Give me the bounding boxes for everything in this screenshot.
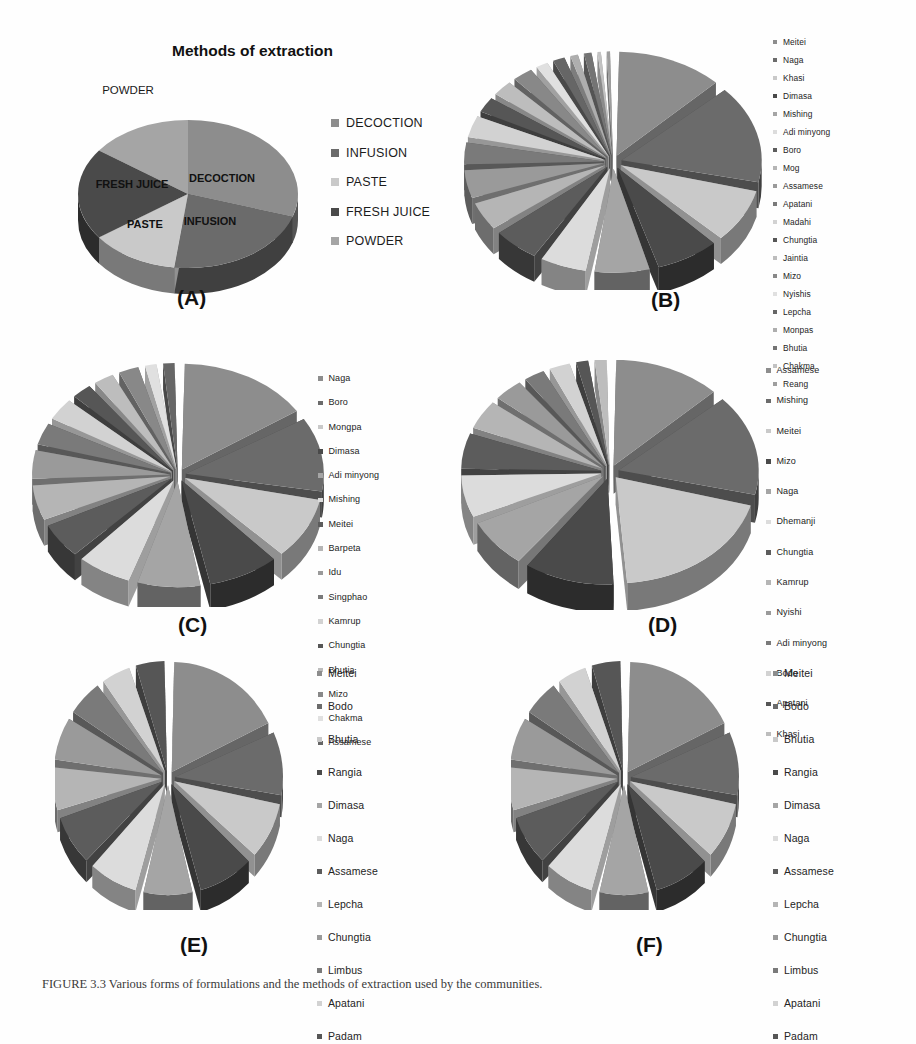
legend-label: POWDER xyxy=(346,235,403,248)
legend-item[interactable]: Chungtia xyxy=(773,236,830,244)
legend-item[interactable]: Mishing xyxy=(766,396,827,405)
legend-item[interactable]: Nyishis xyxy=(773,290,830,298)
legend-item[interactable]: Mog xyxy=(773,164,830,172)
legend-item[interactable]: Dhemanji xyxy=(766,517,827,526)
legend-label: Limbus xyxy=(328,965,362,976)
legend-swatch-icon xyxy=(773,704,778,709)
legend-item[interactable]: Idu xyxy=(318,568,379,577)
legend-item[interactable]: PASTE xyxy=(331,176,430,189)
legend-swatch-icon xyxy=(766,611,771,616)
panel-label-a: (A) xyxy=(177,286,206,310)
legend-item[interactable]: Chungtia xyxy=(766,548,827,557)
legend-item[interactable]: Meitei xyxy=(318,520,379,529)
legend-label: Padam xyxy=(328,1031,362,1042)
legend-item[interactable]: Assamese xyxy=(773,866,834,877)
legend-item[interactable]: Apatani xyxy=(773,200,830,208)
legend-label: Mongpa xyxy=(329,423,362,432)
legend-label: Adi minyong xyxy=(329,471,380,480)
pie-chart-e xyxy=(55,660,285,910)
legend-item[interactable]: Mizo xyxy=(773,272,830,280)
legend-item[interactable]: Rangia xyxy=(317,767,378,778)
legend-item[interactable]: POWDER xyxy=(331,235,430,248)
legend-item[interactable]: Kamrup xyxy=(766,578,827,587)
legend-swatch-icon xyxy=(331,208,339,216)
legend-item[interactable]: INFUSION xyxy=(331,147,430,160)
legend-swatch-icon xyxy=(773,968,778,973)
legend-item[interactable]: Padam xyxy=(773,1031,834,1042)
legend-item[interactable]: Assamese xyxy=(773,182,830,190)
legend-item[interactable]: Meitei xyxy=(773,38,830,46)
legend-label: Apatani xyxy=(328,998,364,1009)
legend-item[interactable]: Madahi xyxy=(773,218,830,226)
legend-label: Mizo xyxy=(777,457,796,466)
legend-item[interactable]: DECOCTION xyxy=(331,117,430,130)
legend-label: Dhemanji xyxy=(777,517,816,526)
legend-item[interactable]: Mishing xyxy=(318,495,379,504)
legend-item[interactable]: Mizo xyxy=(766,457,827,466)
legend-item[interactable]: Apatani xyxy=(317,998,378,1009)
legend-swatch-icon xyxy=(318,376,323,381)
legend-item[interactable]: Dimasa xyxy=(773,92,830,100)
legend-item[interactable]: Mongpa xyxy=(318,423,379,432)
pie-chart-f xyxy=(511,660,741,910)
legend-item[interactable]: Adi minyong xyxy=(318,471,379,480)
legend-item[interactable]: Meitei xyxy=(766,427,827,436)
legend-item[interactable]: Naga xyxy=(766,487,827,496)
legend-item[interactable]: Boro xyxy=(773,146,830,154)
legend-label: Assamese xyxy=(784,866,834,877)
legend-item[interactable]: Jaintia xyxy=(773,254,830,262)
legend-item[interactable]: Mishing xyxy=(773,110,830,118)
legend-item[interactable]: Naga xyxy=(773,833,834,844)
legend-item[interactable]: Naga xyxy=(773,56,830,64)
legend-item[interactable]: Naga xyxy=(317,833,378,844)
legend-item[interactable]: Bhutia xyxy=(773,734,834,745)
legend-label: PASTE xyxy=(346,176,387,189)
legend-item[interactable]: Adi minyong xyxy=(773,128,830,136)
legend-swatch-icon xyxy=(317,671,322,676)
legend-swatch-icon xyxy=(773,1001,778,1006)
legend-item[interactable]: Limbus xyxy=(317,965,378,976)
legend-item[interactable]: Dimasa xyxy=(773,800,834,811)
legend-item[interactable]: Bodo xyxy=(317,701,378,712)
legend-item[interactable]: Chungtia xyxy=(317,932,378,943)
legend-item[interactable]: Meitei xyxy=(317,668,378,679)
legend-item[interactable]: Rangia xyxy=(773,767,834,778)
legend-label: Padam xyxy=(784,1031,818,1042)
legend-item[interactable]: Kamrup xyxy=(318,617,379,626)
legend-item[interactable]: Lepcha xyxy=(773,899,834,910)
legend-item[interactable]: Dimasa xyxy=(318,447,379,456)
legend-label: Dimasa xyxy=(328,800,364,811)
legend-label: Chungtia xyxy=(783,236,817,244)
legend-item[interactable]: Bodo xyxy=(773,701,834,712)
legend-item[interactable]: Meitei xyxy=(773,668,834,679)
legend-item[interactable]: Lepcha xyxy=(773,308,830,316)
figure-caption: FIGURE 3.3 Various forms of formulations… xyxy=(42,976,882,993)
legend-item[interactable]: Limbus xyxy=(773,965,834,976)
legend-swatch-icon xyxy=(766,520,771,525)
legend-item[interactable]: Dimasa xyxy=(317,800,378,811)
legend-label: Khasi xyxy=(783,74,804,82)
legend-item[interactable]: Chungtia xyxy=(773,932,834,943)
legend-swatch-icon xyxy=(317,737,322,742)
legend-item[interactable]: Lepcha xyxy=(317,899,378,910)
legend-item[interactable]: Barpeta xyxy=(318,544,379,553)
legend-item[interactable]: Bhutia xyxy=(317,734,378,745)
legend-swatch-icon xyxy=(773,220,777,224)
legend-item[interactable]: Apatani xyxy=(773,998,834,1009)
legend-label: Boro xyxy=(329,398,348,407)
legend-swatch-icon xyxy=(773,274,777,278)
legend-label: Dimasa xyxy=(783,92,812,100)
legend-label: Singphao xyxy=(329,593,368,602)
legend-item[interactable]: Khasi xyxy=(773,74,830,82)
legend-item[interactable]: Naga xyxy=(318,374,379,383)
legend-item[interactable]: FRESH JUICE xyxy=(331,206,430,219)
legend-item[interactable]: Assamese xyxy=(317,866,378,877)
legend-label: Bodo xyxy=(328,701,353,712)
legend-item[interactable]: Assamese xyxy=(766,366,827,375)
legend-item[interactable]: Padam xyxy=(317,1031,378,1042)
legend-item[interactable]: Nyishi xyxy=(766,608,827,617)
legend-label: FRESH JUICE xyxy=(346,206,430,219)
legend-item[interactable]: Boro xyxy=(318,398,379,407)
legend-item[interactable]: Singphao xyxy=(318,593,379,602)
pie-label-decoction: DECOCTION xyxy=(189,172,255,184)
